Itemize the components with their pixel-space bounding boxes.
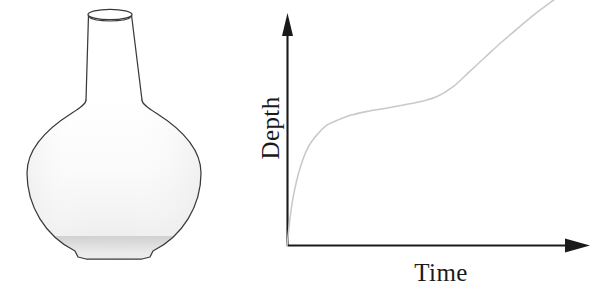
- depth-time-curve: [287, 0, 555, 246]
- flask-liquid-shading: [20, 236, 210, 262]
- flask-diagram: [20, 9, 210, 262]
- x-axis-label: Time: [414, 259, 467, 286]
- y-axis-arrow-icon: [282, 13, 293, 36]
- depth-time-graph: Depth Time: [257, 0, 590, 286]
- flask-neck-opening-rim: [88, 9, 132, 19]
- figure-container: Depth Time: [0, 0, 603, 290]
- y-axis-label: Depth: [257, 96, 284, 159]
- x-axis-arrow-icon: [565, 239, 590, 253]
- figure-svg: Depth Time: [0, 0, 603, 290]
